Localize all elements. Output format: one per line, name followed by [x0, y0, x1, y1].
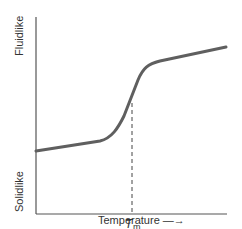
chart: Fluidlike Solidlike T m — [0, 0, 242, 229]
x-axis-label: Temperature —→ — [98, 214, 185, 226]
fluidlike-label: Fluidlike — [13, 16, 25, 56]
curve-line — [36, 47, 226, 151]
solidlike-label: Solidlike — [13, 171, 25, 212]
